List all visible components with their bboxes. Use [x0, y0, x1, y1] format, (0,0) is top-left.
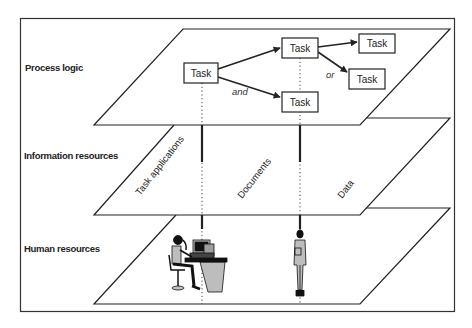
- task-box: Task: [282, 38, 318, 58]
- task-label: Task: [290, 43, 312, 54]
- or-label: or: [326, 69, 335, 80]
- and-label: and: [232, 86, 249, 97]
- layer-label-human-resources: Human resources: [24, 243, 100, 254]
- task-box: Task: [359, 34, 395, 53]
- three-layer-diagram: Task Task Task Task Task and or Process …: [0, 0, 472, 328]
- task-label: Task: [367, 38, 389, 49]
- process-logic-plane: [94, 29, 450, 125]
- task-label: Task: [191, 68, 213, 79]
- task-box: Task: [349, 69, 385, 89]
- layer-label-process-logic: Process logic: [25, 62, 83, 73]
- task-label: Task: [290, 97, 312, 108]
- task-box: Task: [282, 92, 318, 112]
- layer-label-information-resources: Information resources: [24, 150, 118, 161]
- task-box: Task: [184, 63, 218, 83]
- task-label: Task: [357, 74, 379, 85]
